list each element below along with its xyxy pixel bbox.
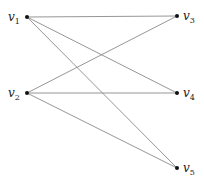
node-v3 <box>175 14 179 18</box>
label-v1: v1 <box>8 10 20 26</box>
bipartite-graph: v1v2v3v4v5 <box>0 0 204 183</box>
label-v2: v2 <box>8 86 20 102</box>
edge-v1-v5 <box>27 17 177 168</box>
node-v1 <box>25 15 29 19</box>
node-v5 <box>175 166 179 170</box>
node-v4 <box>175 91 179 95</box>
edge-v1-v3 <box>27 16 177 17</box>
node-v2 <box>25 91 29 95</box>
label-v4: v4 <box>183 86 195 102</box>
edge-v2-v5 <box>27 93 177 168</box>
label-v3: v3 <box>183 9 195 25</box>
label-v5: v5 <box>183 161 195 177</box>
